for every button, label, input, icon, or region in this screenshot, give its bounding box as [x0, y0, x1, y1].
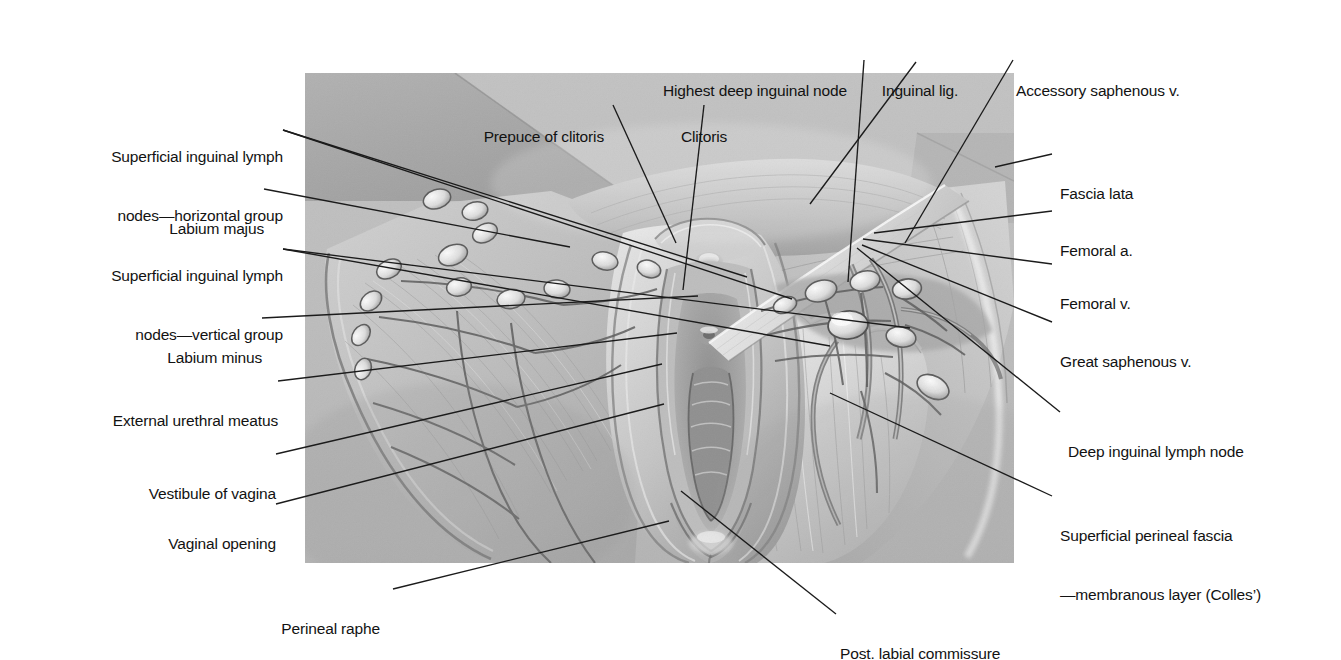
anatomy-illustration — [305, 73, 1014, 563]
label-line-1: Clitoris — [664, 127, 744, 147]
label-line-1: Deep inguinal lymph node — [1068, 442, 1244, 462]
label-line-1: Superficial perineal fascia — [1060, 526, 1261, 546]
label-accessory-saphenous-v: Accessory saphenous v. — [1016, 42, 1180, 140]
label-line-1: Superficial inguinal lymph — [111, 147, 283, 167]
label-inguinal-lig: Inguinal lig. — [868, 42, 972, 140]
label-clitoris: Clitoris — [664, 88, 744, 186]
label-line-1: Vaginal opening — [168, 534, 276, 554]
label-line-1: Perineal raphe — [281, 619, 380, 639]
label-great-saphenous-v: Great saphenous v. — [1060, 313, 1191, 411]
label-line-1: Post. labial commissure — [840, 644, 1000, 660]
label-deep-inguinal-lymph-node: Deep inguinal lymph node — [1068, 403, 1244, 501]
label-perineal-raphe: Perineal raphe — [281, 580, 380, 660]
label-line-1: External urethral meatus — [113, 411, 278, 431]
label-line-1: Labium minus — [167, 348, 262, 368]
label-vaginal-opening: Vaginal opening — [168, 495, 276, 593]
label-line-1: Fascia lata — [1060, 184, 1133, 204]
label-line-1: Accessory saphenous v. — [1016, 81, 1180, 101]
anatomical-plate: Superficial inguinal lymph nodes—horizon… — [0, 0, 1341, 660]
label-line-1: Femoral v. — [1060, 294, 1131, 314]
label-superficial-perineal-fascia: Superficial perineal fascia —membranous … — [1060, 487, 1261, 643]
label-line-1: Superficial inguinal lymph — [111, 266, 283, 286]
label-line-1: Prepuce of clitoris — [484, 127, 604, 147]
label-line-1: Great saphenous v. — [1060, 352, 1191, 372]
label-line-2: —membranous layer (Colles’) — [1060, 585, 1261, 605]
label-post-labial-commissure: Post. labial commissure — [840, 605, 1000, 660]
label-line-1: Inguinal lig. — [868, 81, 972, 101]
label-prepuce-of-clitoris: Prepuce of clitoris — [484, 88, 604, 186]
